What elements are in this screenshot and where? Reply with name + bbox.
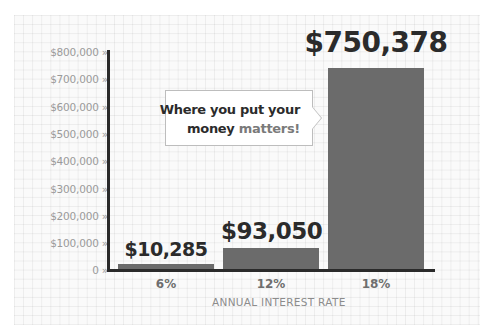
callout-box: Where you put your money matters!: [165, 90, 313, 146]
ytick-label: $400,000 »: [50, 155, 108, 167]
callout-line-1: Where you put your: [160, 100, 300, 119]
ytick-label: $100,000 »: [50, 237, 108, 249]
callout-pointer-fill: [312, 107, 321, 129]
bar-12-percent: [223, 248, 319, 270]
ytick-label: $300,000 »: [50, 183, 108, 195]
ytick-label: $600,000 »: [50, 101, 108, 113]
bar-value-label: $10,285: [118, 238, 214, 260]
callout-text: Where you put your money matters!: [160, 100, 300, 138]
callout-line-2-prefix: money: [187, 121, 239, 136]
ytick-label: $700,000 »: [50, 73, 108, 85]
bar-18-percent: [328, 68, 424, 270]
x-category-label: 12%: [223, 277, 319, 291]
bar-value-label: $750,378: [300, 26, 452, 59]
callout-accent-text: matters!: [239, 121, 300, 136]
x-category-label: 6%: [118, 277, 214, 291]
ytick-label: $200,000 »: [50, 210, 108, 222]
bar-value-label: $93,050: [221, 218, 321, 244]
x-axis-line: [107, 269, 435, 272]
y-axis-line: [107, 50, 110, 272]
x-axis-title: ANNUAL INTEREST RATE: [212, 296, 346, 308]
ytick-label: $800,000 »: [50, 46, 108, 58]
ytick-label: 0 »: [92, 264, 108, 276]
callout-line-2: money matters!: [160, 119, 300, 138]
ytick-label: $500,000 »: [50, 128, 108, 140]
x-category-label: 18%: [328, 277, 424, 291]
